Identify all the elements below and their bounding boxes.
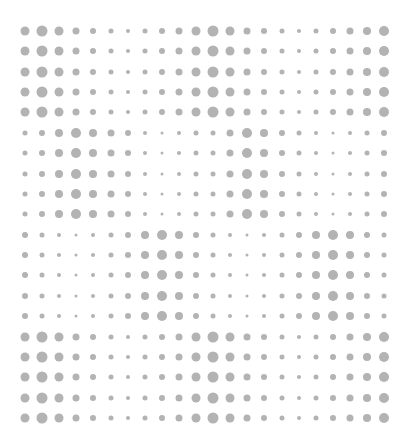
- dot: [379, 393, 389, 403]
- dot: [331, 192, 334, 195]
- dot: [379, 413, 389, 423]
- dot: [22, 232, 28, 238]
- dot: [297, 396, 301, 400]
- dot: [175, 312, 183, 320]
- dot: [193, 313, 199, 319]
- dot: [89, 129, 97, 137]
- dot: [175, 353, 182, 360]
- dot: [125, 252, 131, 258]
- dot: [175, 374, 182, 381]
- dot: [296, 212, 301, 217]
- dot: [192, 47, 201, 56]
- dot: [90, 395, 96, 401]
- dot: [40, 314, 45, 319]
- dot: [108, 354, 113, 359]
- dot: [71, 128, 81, 138]
- dot: [125, 232, 131, 238]
- dot: [192, 393, 201, 402]
- dot: [312, 231, 320, 239]
- dot: [297, 70, 301, 74]
- dot: [193, 272, 199, 278]
- dot: [90, 354, 96, 360]
- dot: [75, 315, 78, 318]
- dot: [126, 90, 130, 94]
- dot: [141, 231, 149, 239]
- dot: [382, 293, 387, 298]
- dot: [89, 170, 97, 178]
- dot: [142, 334, 147, 339]
- dot: [365, 191, 370, 196]
- dot: [159, 395, 165, 401]
- dot: [90, 109, 96, 115]
- dot: [242, 189, 252, 199]
- dot: [108, 314, 113, 319]
- dot: [73, 374, 80, 381]
- dot: [260, 149, 268, 157]
- dot: [297, 375, 301, 379]
- dot: [90, 89, 96, 95]
- dot: [381, 150, 387, 156]
- dot: [37, 26, 48, 37]
- dot: [279, 90, 284, 95]
- dot: [175, 415, 182, 422]
- dot: [208, 413, 219, 424]
- dot: [159, 415, 165, 421]
- dot: [260, 210, 268, 218]
- dot: [314, 172, 318, 176]
- dot: [227, 129, 234, 136]
- dot: [279, 29, 284, 34]
- dot: [177, 151, 181, 155]
- dot: [348, 172, 352, 176]
- dot: [279, 395, 284, 400]
- dot: [91, 314, 95, 318]
- dot: [346, 89, 353, 96]
- dot: [381, 171, 387, 177]
- dot: [108, 293, 113, 298]
- dot: [192, 332, 201, 341]
- dot: [244, 89, 251, 96]
- dot: [313, 69, 318, 74]
- dot: [381, 211, 387, 217]
- dot: [379, 372, 389, 382]
- dot: [55, 149, 63, 157]
- dot: [330, 374, 336, 380]
- dot: [22, 252, 28, 258]
- dot: [71, 189, 81, 199]
- dot: [211, 314, 216, 319]
- dot: [379, 332, 389, 342]
- dot: [279, 130, 285, 136]
- dot: [246, 315, 249, 318]
- dot: [55, 332, 64, 341]
- dot: [55, 414, 64, 423]
- dot: [23, 151, 28, 156]
- dot: [314, 151, 318, 155]
- dot: [297, 416, 301, 420]
- dot: [71, 169, 81, 179]
- dot: [314, 131, 318, 135]
- dot: [226, 373, 235, 382]
- dot: [55, 170, 63, 178]
- dot: [193, 293, 199, 299]
- dot: [313, 354, 318, 359]
- dot: [125, 272, 131, 278]
- dot: [297, 49, 301, 53]
- dot: [37, 351, 48, 362]
- dot: [57, 233, 61, 237]
- dot: [262, 253, 266, 257]
- dot: [107, 170, 114, 177]
- dot: [364, 293, 370, 299]
- dot: [208, 66, 219, 77]
- dot: [382, 314, 387, 319]
- dot: [91, 253, 95, 257]
- dot: [159, 374, 165, 380]
- dot: [75, 294, 78, 297]
- dot: [126, 396, 130, 400]
- dot: [89, 190, 97, 198]
- dot: [40, 232, 45, 237]
- dot: [363, 333, 371, 341]
- dot: [297, 335, 301, 339]
- dot: [177, 131, 181, 135]
- dot: [55, 190, 63, 198]
- dot: [125, 211, 131, 217]
- dot: [246, 294, 249, 297]
